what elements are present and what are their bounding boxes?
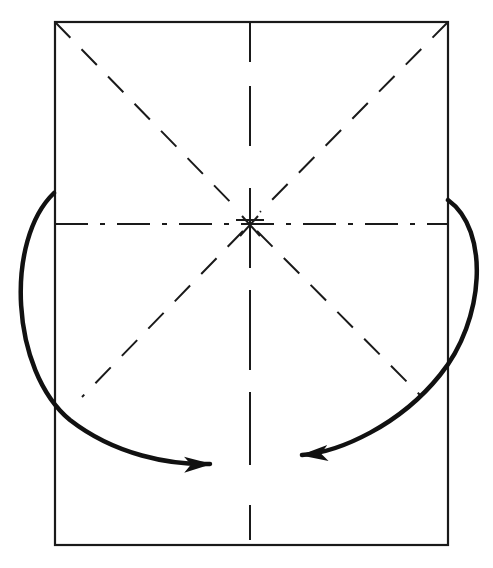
paper-sheet	[55, 22, 448, 545]
fold-diagram	[0, 0, 493, 568]
fold-diagram-canvas	[0, 0, 493, 568]
